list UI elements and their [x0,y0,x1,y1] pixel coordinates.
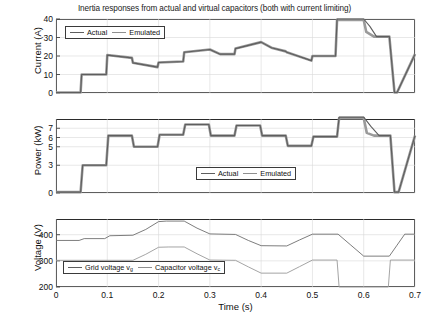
power-ytick: 5 [48,142,53,152]
power-panel: Power (kW) 0 3 5 6 7 Actual Emulated [56,119,415,193]
legend-entry-actual: Actual [70,28,107,37]
x-tick: 0.5 [307,290,319,300]
x-tick: 0.3 [204,290,216,300]
legend-entry-grid-voltage: Grid voltage vg [68,263,133,272]
line-swatch-capacitor-voltage-icon [138,267,152,268]
power-ytick: 6 [48,133,53,143]
voltage-ytick: 200 [39,282,53,292]
power-y-axis-label: Power (kW) [32,108,43,194]
legend-label-grid-voltage: Grid voltage vg [85,263,133,272]
line-swatch-grid-voltage-icon [68,267,82,268]
current-ytick: 40 [44,14,53,24]
voltage-ytick: 400 [39,230,53,240]
x-tick: 0.6 [358,290,370,300]
line-swatch-actual-icon [201,173,215,174]
current-y-axis-label: Current (A) [32,8,43,94]
legend-label-emulated: Emulated [260,169,291,178]
legend-entry-actual: Actual [201,169,238,178]
current-ytick: 20 [44,51,53,61]
current-ytick: 30 [44,33,53,43]
legend-label-emulated: Emulated [129,28,160,37]
power-ytick: 3 [48,160,53,170]
x-tick: 0.1 [101,290,113,300]
current-legend: Actual Emulated [65,26,165,39]
power-legend: Actual Emulated [196,167,296,180]
current-ytick: 0 [48,88,53,98]
power-ytick: 7 [48,123,53,133]
legend-entry-emulated: Emulated [243,169,291,178]
legend-entry-emulated: Emulated [112,28,160,37]
voltage-y-axis-label: Voltage (V) [32,205,43,291]
power-plot-canvas [56,119,415,193]
line-swatch-emulated-icon [112,32,126,33]
line-swatch-actual-icon [70,32,84,33]
figure: Inertia responses from actual and virtua… [0,0,429,326]
line-swatch-emulated-icon [243,173,257,174]
x-tick: 0.7 [409,290,421,300]
voltage-legend: Grid voltage vg Capacitor voltage vc [63,261,225,274]
current-panel: Current (A) 0 10 20 30 40 Actual Emulate… [56,19,415,93]
x-tick: 0.4 [255,290,267,300]
legend-label-actual: Actual [218,169,238,178]
power-ytick: 0 [48,188,53,198]
voltage-plot-canvas [56,219,415,287]
series-line-1 [56,221,415,256]
figure-title: Inertia responses from actual and virtua… [0,4,429,13]
legend-entry-capacitor-voltage: Capacitor voltage vc [138,263,220,272]
voltage-ytick: 300 [39,256,53,266]
x-tick: 0 [54,290,59,300]
x-tick: 0.2 [153,290,165,300]
legend-label-capacitor-voltage: Capacitor voltage vc [155,263,220,272]
legend-label-actual: Actual [87,28,107,37]
x-axis-label: Time (s) [218,301,252,312]
current-ytick: 10 [44,70,53,80]
voltage-panel: Voltage (V) 200 300 400 Grid voltage vg … [56,219,415,287]
